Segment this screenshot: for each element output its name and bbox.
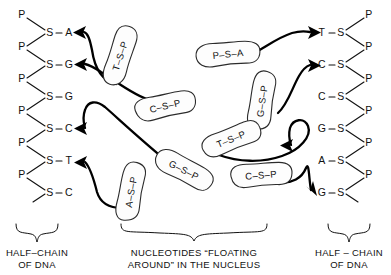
left-sugar-3: S bbox=[46, 90, 53, 102]
left-phosphate-2: P bbox=[18, 40, 25, 52]
right-sugar-1: S bbox=[337, 26, 344, 38]
left-sugar-6: S bbox=[46, 186, 53, 198]
left-sugar-5: S bbox=[46, 154, 53, 166]
right-base-6: G bbox=[318, 186, 327, 198]
diagram-canvas: P P P P P P S S S S S S A G G C T C bbox=[0, 0, 391, 275]
middle-caption-line1: NUCLEOTIDES “FLOATING bbox=[131, 247, 257, 258]
right-phosphate-6: P bbox=[365, 168, 372, 180]
right-sugar-6: S bbox=[337, 186, 344, 198]
right-phosphate-2: P bbox=[365, 40, 372, 52]
canvas-background bbox=[0, 0, 391, 275]
right-caption-line2: OF DNA bbox=[330, 259, 368, 270]
right-phosphate-4: P bbox=[365, 104, 372, 116]
right-sugar-2: S bbox=[337, 58, 344, 70]
right-base-4: G bbox=[318, 122, 327, 134]
right-sugar-4: S bbox=[337, 122, 344, 134]
left-phosphate-1: P bbox=[18, 8, 25, 20]
right-base-2: C bbox=[318, 58, 326, 70]
right-base-3: C bbox=[318, 90, 326, 102]
left-base-1: A bbox=[65, 26, 72, 38]
free-nucleotide-8[interactable]: C–S–P bbox=[230, 160, 293, 189]
left-phosphate-3: P bbox=[18, 72, 25, 84]
left-caption-line1: HALF–CHAIN bbox=[6, 247, 68, 258]
left-phosphate-5: P bbox=[18, 136, 25, 148]
left-phosphate-6: P bbox=[18, 168, 25, 180]
left-base-3: G bbox=[65, 90, 74, 102]
right-phosphate-5: P bbox=[365, 136, 372, 148]
right-caption-line1: HALF – CHAIN bbox=[315, 247, 383, 258]
right-phosphate-3: P bbox=[365, 72, 372, 84]
left-base-4: C bbox=[65, 122, 73, 134]
left-sugar-4: S bbox=[46, 122, 53, 134]
right-sugar-5: S bbox=[337, 154, 344, 166]
right-sugar-3: S bbox=[337, 90, 344, 102]
middle-caption-line2: AROUND” IN THE NUCLEUS bbox=[128, 259, 261, 270]
dna-replication-diagram: P P P P P P S S S S S S A G G C T C bbox=[0, 0, 391, 275]
left-sugar-1: S bbox=[46, 26, 53, 38]
left-base-5: T bbox=[66, 154, 73, 166]
right-base-5: A bbox=[318, 154, 325, 166]
left-sugar-2: S bbox=[46, 58, 53, 70]
left-base-6: C bbox=[65, 186, 73, 198]
right-phosphate-1: P bbox=[365, 8, 372, 20]
left-base-2: G bbox=[65, 58, 74, 70]
left-caption-line2: OF DNA bbox=[18, 259, 56, 270]
left-phosphate-4: P bbox=[18, 104, 25, 116]
